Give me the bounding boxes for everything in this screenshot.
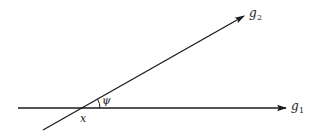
angle-diagram: x ψ g 1 g 2 bbox=[0, 0, 313, 139]
intersection-label: x bbox=[80, 112, 87, 125]
svg-text:g: g bbox=[249, 6, 257, 20]
angle-label: ψ bbox=[102, 94, 111, 107]
label-g2: g 2 bbox=[249, 6, 262, 22]
svg-text:g: g bbox=[291, 99, 299, 113]
line-g2 bbox=[43, 16, 244, 130]
svg-text:2: 2 bbox=[257, 13, 262, 22]
angle-arc bbox=[98, 99, 100, 108]
svg-text:1: 1 bbox=[299, 106, 304, 115]
label-g1: g 1 bbox=[291, 99, 304, 115]
